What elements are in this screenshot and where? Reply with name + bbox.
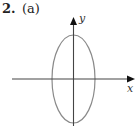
ellipse-diagram <box>0 0 139 137</box>
y-axis-arrow-icon <box>70 17 77 25</box>
x-axis-label: x <box>127 82 133 95</box>
y-axis-label: y <box>79 12 85 25</box>
